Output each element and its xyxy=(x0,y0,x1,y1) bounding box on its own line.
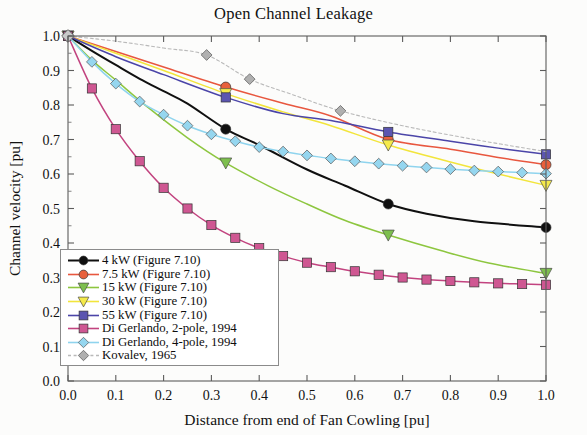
x-tick-label: 0.6 xyxy=(346,388,364,403)
y-tick-label: 0.6 xyxy=(43,167,61,182)
y-axis-title: Channel velocity [pu] xyxy=(6,141,23,276)
data-point-marker xyxy=(446,276,455,285)
data-point-marker xyxy=(182,120,193,131)
x-tick-label: 1.0 xyxy=(537,388,555,403)
series-line xyxy=(68,36,546,152)
legend-marker-icon xyxy=(67,254,100,267)
data-point-marker xyxy=(398,273,407,282)
legend-label: Kovalev, 1965 xyxy=(100,348,177,363)
data-point-marker xyxy=(384,127,393,136)
series-line xyxy=(68,36,546,154)
data-point-marker xyxy=(230,136,241,147)
data-point-marker xyxy=(326,263,335,272)
chart-legend: 4 kW (Figure 7.10)7.5 kW (Figure 7.10)15… xyxy=(60,249,279,366)
data-point-marker xyxy=(231,233,240,242)
data-point-marker xyxy=(470,278,479,287)
legend-item[interactable]: 55 kW (Figure 7.10) xyxy=(67,308,273,322)
y-tick-label: 0.9 xyxy=(43,64,61,79)
legend-marker-icon xyxy=(67,336,100,349)
data-point-marker xyxy=(397,160,408,171)
y-tick-label: 0.1 xyxy=(43,340,61,355)
y-tick-label: 0.8 xyxy=(43,98,61,113)
x-tick-label: 0.2 xyxy=(155,388,173,403)
chart-figure: Open Channel Leakage 0.00.10.20.30.40.50… xyxy=(0,0,587,435)
data-point-marker xyxy=(158,109,169,120)
x-tick-label: 0.9 xyxy=(489,388,507,403)
x-tick-label: 0.3 xyxy=(203,388,221,403)
series-line xyxy=(68,36,546,227)
plot-area: 0.00.10.20.30.40.50.60.70.80.91.00.00.10… xyxy=(0,0,587,435)
data-point-marker xyxy=(221,124,231,134)
data-point-marker xyxy=(135,157,144,166)
legend-item[interactable]: 4 kW (Figure 7.10) xyxy=(67,254,273,268)
legend-marker-icon xyxy=(67,268,100,281)
x-tick-label: 0.1 xyxy=(107,388,125,403)
y-tick-label: 0.3 xyxy=(43,271,61,286)
legend-item[interactable]: 7.5 kW (Figure 7.10) xyxy=(67,268,273,282)
x-tick-label: 0.8 xyxy=(442,388,460,403)
data-point-marker xyxy=(335,105,346,116)
data-point-marker xyxy=(373,158,384,169)
y-tick-label: 0.2 xyxy=(43,305,61,320)
data-point-marker xyxy=(374,270,383,279)
data-point-marker xyxy=(87,84,96,93)
legend-marker-icon xyxy=(67,322,100,335)
legend-marker-icon xyxy=(67,295,100,308)
legend-marker-icon xyxy=(67,349,100,362)
data-point-marker xyxy=(302,150,313,161)
data-point-marker xyxy=(382,230,394,241)
legend-item[interactable]: 15 kW (Figure 7.10) xyxy=(67,281,273,295)
data-point-marker xyxy=(159,183,168,192)
x-tick-label: 0.5 xyxy=(298,388,316,403)
data-point-marker xyxy=(183,204,192,213)
x-tick-label: 0.7 xyxy=(394,388,412,403)
data-point-marker xyxy=(279,252,288,261)
legend-marker-icon xyxy=(67,309,100,322)
x-axis-title: Distance from end of Fan Cowling [pu] xyxy=(184,411,429,428)
data-point-marker xyxy=(206,129,217,140)
data-point-marker xyxy=(445,164,456,175)
y-tick-label: 0.0 xyxy=(43,374,61,389)
data-point-marker xyxy=(244,74,255,85)
data-point-marker xyxy=(220,158,232,169)
y-tick-label: 0.4 xyxy=(43,236,61,251)
data-point-marker xyxy=(422,275,431,284)
x-tick-label: 0.0 xyxy=(59,388,77,403)
data-point-marker xyxy=(421,162,432,173)
series-3 xyxy=(62,31,552,191)
data-point-marker xyxy=(302,258,311,267)
legend-marker-icon xyxy=(67,281,100,294)
data-point-marker xyxy=(350,267,359,276)
x-tick-label: 0.4 xyxy=(250,388,268,403)
y-tick-label: 0.7 xyxy=(43,133,61,148)
data-point-marker xyxy=(349,156,360,167)
y-tick-label: 1.0 xyxy=(43,29,61,44)
legend-item[interactable]: Di Gerlando, 4-pole, 1994 xyxy=(67,336,273,350)
data-point-marker xyxy=(518,279,527,288)
data-point-marker xyxy=(201,50,212,61)
y-tick-label: 0.5 xyxy=(43,202,61,217)
legend-item[interactable]: Kovalev, 1965 xyxy=(67,349,273,363)
data-point-marker xyxy=(111,125,120,134)
legend-item[interactable]: Di Gerlando, 2-pole, 1994 xyxy=(67,322,273,336)
data-point-marker xyxy=(326,153,337,164)
data-point-marker xyxy=(207,220,216,229)
series-7 xyxy=(63,31,546,152)
data-point-marker xyxy=(517,167,528,178)
legend-item[interactable]: 30 kW (Figure 7.10) xyxy=(67,295,273,309)
data-point-marker xyxy=(494,279,503,288)
data-point-marker xyxy=(221,93,230,102)
data-point-marker xyxy=(383,199,393,209)
